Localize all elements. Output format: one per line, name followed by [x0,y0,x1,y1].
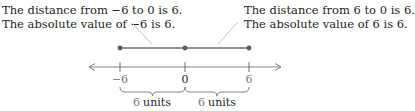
brace-left-unit: units [143,96,171,109]
brace-right [185,87,249,96]
brace-label-left: 6units [133,96,171,109]
brace-label-right: 6units [198,96,236,109]
brace-left [120,87,185,96]
point-zero [183,46,188,51]
brace-right-number: 6 [198,96,205,109]
tick-label-negative-six: −6 [112,73,128,86]
point-positive-six [247,46,252,51]
leader-line-right [218,22,238,44]
brace-left-number: 6 [133,96,140,109]
leader-line-left [132,23,152,44]
tick-label-positive-six: 6 [246,73,253,86]
point-negative-six [118,46,123,51]
tick-label-zero: 0 [182,73,189,86]
brace-right-unit: units [208,96,236,109]
